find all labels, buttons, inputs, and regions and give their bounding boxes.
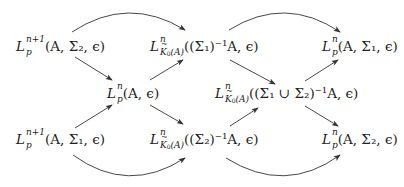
node-bottom-right: Lnp(A, Σ₂, ϵ): [322, 131, 398, 149]
subscript: p: [117, 95, 123, 104]
arguments: (A, Σ₁, ϵ): [45, 131, 105, 147]
arguments: ((Σ₂)⁻¹A, ϵ): [184, 131, 258, 147]
k-index: 0: [167, 50, 171, 57]
node-top-left: Ln+1p(A, Σ₂, ϵ): [16, 38, 105, 56]
superscript: n+1: [26, 35, 45, 44]
subscript: p: [26, 48, 45, 57]
subscript: p: [332, 48, 338, 57]
indices: nK0(A): [225, 85, 249, 103]
node-bottom-left: Ln+1p(A, Σ₁, ϵ): [16, 131, 105, 149]
arguments: (A, Σ₂, ϵ): [45, 38, 105, 54]
symbol-L: L: [322, 131, 331, 147]
arrow-top-left-to-mid-left: [75, 57, 112, 80]
symbol-L: L: [322, 38, 331, 54]
superscript: n+1: [26, 128, 45, 137]
arrow-mid-left-to-bottom-mid: [150, 105, 183, 124]
subscript: p: [26, 141, 45, 150]
arguments: ((Σ₁)⁻¹A, ϵ): [184, 38, 258, 54]
k-index: 0: [167, 143, 171, 150]
k-arg: (A): [171, 47, 185, 57]
symbol-L: L: [150, 38, 159, 54]
arrow-mid-right-to-top-right: [305, 60, 338, 81]
arrow-bottom-mid-to-bottom-right: [226, 155, 340, 176]
arrow-bottom-left-to-mid-left: [75, 105, 112, 128]
arrow-top-mid-to-mid-right: [230, 60, 275, 84]
arrow-bottom-mid-to-mid-right: [230, 108, 258, 126]
arrow-mid-right-to-bottom-right-2: [305, 106, 338, 126]
arguments: (A, ϵ): [123, 85, 159, 101]
k-tilde: K: [160, 140, 167, 150]
indices: np: [332, 38, 338, 56]
subscript: K0(A): [225, 95, 249, 104]
subscript: K0(A): [160, 141, 184, 150]
k-index: 0: [232, 97, 236, 104]
node-mid-left: Lnp(A, ϵ): [107, 85, 159, 103]
subscript: p: [332, 141, 338, 150]
arrow-bottom-left-to-bottom-mid: [73, 155, 185, 176]
arrow-top-mid-to-top-right: [229, 13, 340, 32]
symbol-L: L: [16, 131, 25, 147]
indices: n+1p: [26, 131, 45, 149]
arrow-top-left-to-top-mid: [72, 13, 185, 32]
node-mid-right: LnK0(A)((Σ₁ ∪ Σ₂)⁻¹A, ϵ): [215, 85, 358, 103]
superscript: n: [332, 128, 338, 137]
k-tilde: K: [160, 47, 167, 57]
symbol-L: L: [16, 38, 25, 54]
arguments: ((Σ₁ ∪ Σ₂)⁻¹A, ϵ): [249, 85, 358, 101]
symbol-L: L: [150, 131, 159, 147]
indices: np: [117, 85, 123, 103]
indices: nK0(A): [160, 131, 184, 149]
arguments: (A, Σ₂, ϵ): [338, 131, 398, 147]
arguments: (A, Σ₁, ϵ): [338, 38, 398, 54]
k-arg: (A): [236, 94, 250, 104]
indices: nK0(A): [160, 38, 184, 56]
node-top-mid: LnK0(A)((Σ₁)⁻¹A, ϵ): [150, 38, 259, 56]
arrow-mid-left-to-top-mid: [150, 60, 183, 80]
node-bottom-mid: LnK0(A)((Σ₂)⁻¹A, ϵ): [150, 131, 259, 149]
superscript: n: [332, 35, 338, 44]
subscript: K0(A): [160, 48, 184, 57]
k-arg: (A): [171, 140, 185, 150]
indices: n+1p: [26, 38, 45, 56]
symbol-L: L: [215, 85, 224, 101]
node-top-right: Lnp(A, Σ₁, ϵ): [322, 38, 398, 56]
superscript: n: [117, 82, 123, 91]
symbol-L: L: [107, 85, 116, 101]
indices: np: [332, 131, 338, 149]
k-tilde: K: [225, 94, 232, 104]
